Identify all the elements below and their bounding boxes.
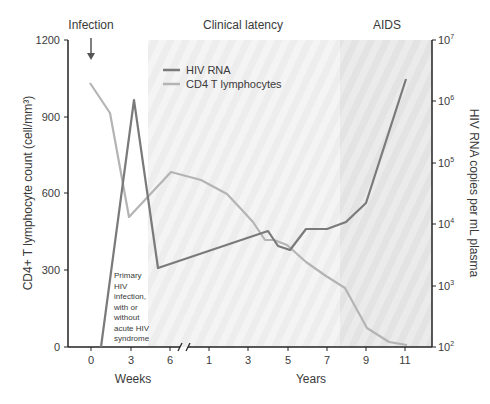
y-left-tick-900: 900: [42, 111, 60, 123]
legend-label-cd4: CD4 T lymphocytes: [186, 78, 282, 90]
phase-label-infection: Infection: [68, 18, 113, 32]
phase-label-aids: AIDS: [373, 18, 401, 32]
x-axis-label-weeks: Weeks: [115, 372, 151, 386]
y-right-tick-1e5: 105: [438, 156, 454, 169]
aids-region: [340, 40, 432, 347]
svg-text:without: without: [113, 313, 140, 322]
x-tick-week-3: 3: [128, 354, 134, 366]
y-right-tick-1e4: 104: [438, 217, 454, 230]
y-axis-right-title: HIV RNA copies per mL plasma: [467, 109, 481, 278]
y-axis-left-title: CD4+ T lymphocyte count (cell/mm³): [21, 96, 35, 291]
x-tick-year-3: 3: [245, 354, 251, 366]
x-tick-year-9: 9: [363, 354, 369, 366]
x-tick-week-6: 6: [167, 354, 173, 366]
legend-label-hiv-rna: HIV RNA: [186, 64, 231, 76]
y-left-tick-600: 600: [42, 187, 60, 199]
primary-infection-annotation: Primary HIV infection, with or without a…: [113, 271, 150, 343]
y-left-tick-0: 0: [54, 341, 60, 353]
x-tick-year-5: 5: [285, 354, 291, 366]
svg-text:with or: with or: [113, 303, 138, 312]
x-tick-year-1: 1: [206, 354, 212, 366]
y-left-tick-300: 300: [42, 264, 60, 276]
y-left-tick-1200: 1200: [36, 34, 60, 46]
svg-text:syndrome: syndrome: [114, 334, 150, 343]
y-right-tick-1e7: 107: [438, 33, 454, 46]
x-axis-label-years: Years: [296, 372, 326, 386]
svg-text:HIV: HIV: [114, 282, 128, 291]
svg-text:infection,: infection,: [114, 292, 146, 301]
y-right-tick-1e3: 103: [438, 279, 454, 292]
x-tick-year-7: 7: [324, 354, 330, 366]
phase-label-clinical-latency: Clinical latency: [203, 18, 283, 32]
x-tick-week-0: 0: [88, 354, 94, 366]
svg-text:Primary: Primary: [114, 271, 142, 280]
chart-canvas: 1200 900 600 300 0 107 106 105 104 103 1…: [0, 0, 490, 404]
x-tick-year-11: 11: [399, 354, 410, 366]
y-right-tick-1e2: 102: [438, 340, 454, 353]
y-right-tick-1e6: 106: [438, 94, 454, 107]
svg-text:acute HIV: acute HIV: [114, 324, 150, 333]
infection-arrow-icon: [87, 38, 95, 60]
